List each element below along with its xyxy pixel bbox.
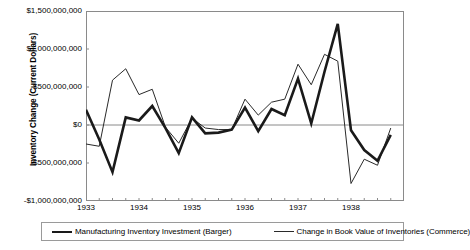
legend-entry-manufacturing-inventory-investment: Manufacturing Inventory Investment (Barg…	[52, 227, 232, 236]
series-line-manufacturing-inventory-investment	[86, 24, 391, 172]
legend-swatch-thick-line-icon	[52, 231, 72, 233]
legend-swatch-thin-line-icon	[274, 231, 294, 232]
x-axis-tick-label: 1938	[331, 203, 371, 212]
plot-lines	[86, 11, 404, 201]
legend-label-manufacturing-inventory-investment: Manufacturing Inventory Investment (Barg…	[75, 227, 232, 236]
x-axis-tick-label: 1935	[172, 203, 212, 212]
caption-sliver	[4, 243, 304, 249]
x-axis-tick-label: 1934	[119, 203, 159, 212]
legend-entry-change-in-book-value: Change in Book Value of Inventories (Com…	[274, 227, 470, 236]
chart-legend: Manufacturing Inventory Investment (Barg…	[41, 222, 404, 241]
x-axis-tick-label: 1936	[225, 203, 265, 212]
x-axis-tick-label: 1933	[66, 203, 106, 212]
x-axis-tick-label: 1937	[278, 203, 318, 212]
legend-label-change-in-book-value: Change in Book Value of Inventories (Com…	[297, 227, 470, 236]
